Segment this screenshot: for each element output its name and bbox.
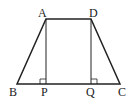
trapezoid-diagram: A D B P Q C <box>0 0 136 107</box>
label-d: D <box>89 6 98 20</box>
label-b: B <box>9 85 17 99</box>
label-q: Q <box>86 85 95 99</box>
label-c: C <box>118 85 126 99</box>
label-a: A <box>38 6 47 20</box>
label-p: P <box>41 85 48 99</box>
trapezoid-abcd <box>17 19 120 84</box>
